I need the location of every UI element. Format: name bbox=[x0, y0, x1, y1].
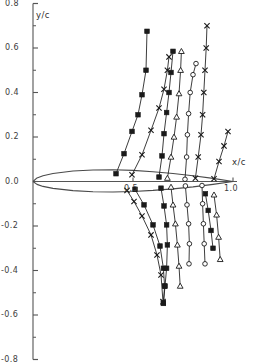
x-axis-title: x/c bbox=[232, 157, 246, 167]
series-upper-series-cross-far bbox=[211, 129, 230, 182]
y-tick-label: 0.2 bbox=[5, 132, 19, 141]
series-upper-series-cross-right bbox=[193, 23, 210, 181]
y-tick-label: -0.8 bbox=[1, 355, 18, 363]
y-tick-label: -0.4 bbox=[1, 266, 18, 275]
series-lower-series-triangle bbox=[168, 184, 183, 288]
airfoil-wake-profile-plot bbox=[0, 0, 260, 363]
y-tick-label: 0.0 bbox=[5, 177, 19, 186]
y-tick-label: -0.6 bbox=[1, 310, 18, 319]
x-tick-label: 1.0 bbox=[224, 184, 238, 193]
series-lower-series-triangle-right bbox=[211, 192, 223, 262]
y-axis-title: y/c bbox=[36, 10, 50, 20]
y-tick-label: -0.2 bbox=[1, 221, 18, 230]
chart-figure: y/c x/c 0.80.60.40.20.0-0.2-0.4-0.6-0.80… bbox=[0, 0, 260, 363]
y-tick-label: 0.4 bbox=[5, 88, 19, 97]
x-tick-label: 0.5 bbox=[124, 184, 138, 193]
series-lower-series-circle bbox=[183, 184, 192, 266]
series-upper-series-circle bbox=[183, 61, 199, 181]
y-tick-label: 0.6 bbox=[5, 43, 19, 52]
y-tick-label: 0.8 bbox=[5, 0, 19, 8]
series-upper-series-square bbox=[114, 29, 150, 176]
